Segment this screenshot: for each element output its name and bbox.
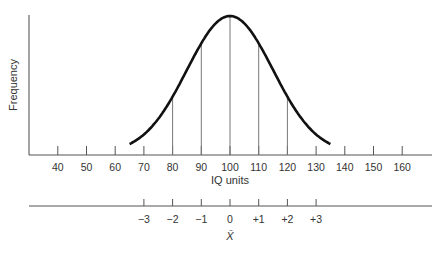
sd-vertical-lines [173, 16, 288, 155]
x-axis-title: IQ units [211, 174, 249, 186]
x-tick-label: 140 [336, 161, 354, 173]
x-tick-label: 120 [279, 161, 297, 173]
x-tick-label: 130 [307, 161, 325, 173]
sd-tick-label: −2 [167, 213, 179, 225]
sd-tick-label: −1 [195, 213, 207, 225]
sd-tick-label: +1 [253, 213, 265, 225]
y-axis-title: Frequency [7, 59, 19, 111]
sd-tick-label: 0 [227, 213, 233, 225]
svg-text:Frequency: Frequency [7, 59, 19, 111]
sd-tick-label: −3 [138, 213, 150, 225]
x-tick-label: 40 [52, 161, 64, 173]
x-tick-label: 90 [195, 161, 207, 173]
sd-tick-label: +2 [281, 213, 293, 225]
x-tick-label: 70 [138, 161, 150, 173]
x-tick-label: 150 [365, 161, 383, 173]
sd-axis-ticks: −3−2−10+1+2+3 [138, 199, 322, 225]
x-tick-label: 50 [81, 161, 93, 173]
x-tick-label: 80 [167, 161, 179, 173]
x-tick-label: 110 [250, 161, 267, 173]
x-axis-ticks: 405060708090100110120130140150160 [52, 146, 411, 173]
x-tick-label: 60 [109, 161, 121, 173]
sd-tick-label: +3 [310, 213, 322, 225]
x-tick-label: 160 [393, 161, 411, 173]
x-tick-label: 100 [221, 161, 239, 173]
normal-distribution-chart: Frequency 405060708090100110120130140150… [0, 0, 446, 253]
mean-symbol: X̄ [225, 230, 234, 242]
